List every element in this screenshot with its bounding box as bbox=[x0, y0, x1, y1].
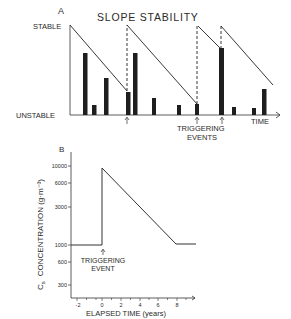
annotation-event: EVENT bbox=[91, 265, 115, 272]
figure: A SLOPE STABILITY STABLE UNSTABLE TIME bbox=[0, 0, 291, 319]
y-tick-labels: 10000 6000 3000 1000 600 300 bbox=[52, 163, 67, 288]
x-tick-label: 4 bbox=[138, 302, 141, 308]
x-ticks bbox=[77, 298, 186, 301]
annotation-triggering: TRIGGERING bbox=[81, 257, 125, 264]
y-tick-label: 1000 bbox=[55, 242, 67, 248]
annotation-triggering: TRIGGERING bbox=[177, 124, 225, 133]
y-tick-label: 300 bbox=[58, 282, 67, 288]
up-arrow-icon bbox=[125, 117, 129, 124]
bar bbox=[232, 107, 236, 115]
bar bbox=[92, 105, 97, 115]
annotation-events: EVENTS bbox=[187, 133, 217, 142]
y-tick-label: 600 bbox=[58, 259, 67, 265]
y-label-unstable: UNSTABLE bbox=[16, 111, 55, 120]
bar bbox=[126, 92, 131, 115]
cs-subscript: s bbox=[40, 281, 46, 284]
x-tick-label: 6 bbox=[156, 302, 159, 308]
y-label-stable: STABLE bbox=[33, 22, 61, 31]
reset-dashed-lines bbox=[127, 25, 221, 104]
bar bbox=[252, 108, 256, 115]
x-axis-label: ELAPSED TIME (years) bbox=[86, 309, 166, 318]
panel-a-letter: A bbox=[58, 6, 64, 16]
y-tick-label: 10000 bbox=[52, 163, 67, 169]
panel-b-letter: B bbox=[59, 145, 64, 154]
bar bbox=[104, 78, 109, 115]
y-tick-label: 3000 bbox=[55, 204, 67, 210]
x-tick-label: 8 bbox=[175, 302, 178, 308]
svg-text:CsCONCENTRATION (g·m⁻³): CsCONCENTRATION (g·m⁻³) bbox=[36, 179, 46, 290]
trigger-arrows bbox=[125, 117, 224, 124]
bar bbox=[83, 53, 88, 115]
x-label-time: TIME bbox=[251, 117, 269, 126]
event-bars bbox=[83, 48, 267, 115]
x-tick-labels: -2 0 2 4 6 8 bbox=[76, 302, 179, 308]
bar bbox=[177, 105, 181, 115]
y-tick-label: 6000 bbox=[55, 180, 67, 186]
panel-b: B 10000 6000 3000 1000 600 300 CsCONCENT… bbox=[36, 145, 196, 318]
x-tick-label: -2 bbox=[76, 302, 81, 308]
up-arrow-icon bbox=[220, 117, 224, 124]
up-arrow-icon bbox=[101, 249, 105, 255]
x-tick-label: 0 bbox=[100, 302, 103, 308]
panel-a-title: SLOPE STABILITY bbox=[97, 11, 199, 23]
x-tick-label: 2 bbox=[119, 302, 122, 308]
panel-a: A SLOPE STABILITY STABLE UNSTABLE TIME bbox=[16, 6, 280, 142]
y-ticks bbox=[68, 166, 71, 285]
concentration-curve bbox=[71, 168, 196, 245]
concentration-label: CONCENTRATION (g·m⁻³) bbox=[36, 179, 45, 277]
stability-curve bbox=[70, 25, 273, 104]
bar bbox=[219, 48, 224, 115]
up-arrow-icon bbox=[195, 117, 199, 124]
bar bbox=[133, 53, 138, 115]
bar bbox=[195, 104, 199, 115]
bar bbox=[152, 98, 156, 115]
bar bbox=[262, 89, 267, 115]
y-axis-label: CsCONCENTRATION (g·m⁻³) bbox=[36, 179, 46, 290]
